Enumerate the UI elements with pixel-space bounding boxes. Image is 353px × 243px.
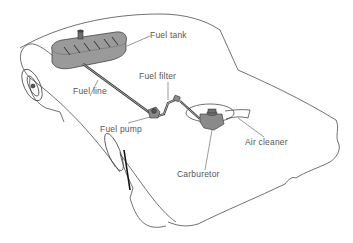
label-fuel-tank: Fuel tank (150, 31, 187, 40)
label-fuel-filter: Fuel filter (139, 72, 176, 81)
fuel-pump-icon (148, 107, 160, 118)
label-carburetor: Carburetor (177, 170, 220, 179)
fuel-tank-icon (52, 30, 127, 69)
label-air-cleaner: Air cleaner (245, 138, 288, 147)
label-fuel-line: Fuel line (73, 87, 107, 96)
carburetor-icon (200, 109, 224, 130)
label-fuel-pump: Fuel pump (100, 125, 142, 134)
rear-wheel-icon (18, 66, 47, 104)
front-wheel-icon (101, 131, 176, 227)
